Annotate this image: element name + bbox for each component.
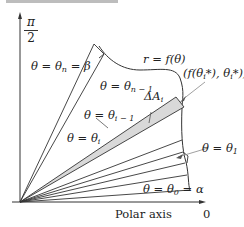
origin-label: 0 — [203, 209, 210, 221]
vertical-axis-arrow — [18, 12, 22, 19]
polar-area-diagram: π 2 θ = θn = β r = f(θ) θ = θn − 1 (f(θi… — [0, 0, 244, 227]
label-theta-0: θ = θ0 = α — [143, 184, 204, 197]
polar-axis-label: Polar axis — [115, 209, 172, 221]
label-theta-i: θ = θi — [67, 133, 100, 146]
label-theta-n: θ = θn = β — [31, 61, 91, 74]
label-sample-point: (f(θi*), θi*)) — [183, 68, 244, 81]
label-theta-i-minus-1: θ = θi − 1 — [84, 110, 134, 123]
label-delta-a: ΔAi — [144, 91, 163, 104]
label-curve: r = f(θ) — [143, 54, 186, 66]
pi-denominator: 2 — [24, 32, 38, 45]
label-theta-1: θ = θ1 — [202, 143, 238, 156]
polar-axis-arrow — [199, 200, 206, 204]
pi-numerator: π — [24, 16, 38, 29]
vertical-axis-label: π 2 — [24, 16, 38, 45]
